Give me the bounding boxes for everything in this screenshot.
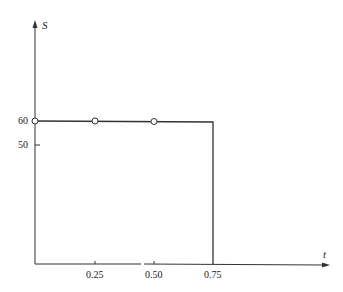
open-marker — [32, 118, 38, 124]
x-tick-label: 0.50 — [145, 269, 163, 280]
x-tick-label: 0.25 — [86, 269, 104, 280]
x-axis-segment — [144, 264, 325, 265]
y-tick-label: 50 — [18, 139, 28, 150]
y-axis-label: S — [42, 19, 48, 31]
x-axis-label: t — [323, 248, 327, 260]
data-line — [35, 121, 213, 264]
open-marker — [151, 119, 157, 125]
open-marker — [92, 118, 98, 124]
x-axis-arrow-icon — [322, 263, 330, 268]
step-chart: S t 0.25 0.50 0.75 60 50 — [0, 0, 343, 292]
y-axis-arrow-icon — [33, 20, 38, 28]
x-tick-label: 0.75 — [204, 269, 222, 280]
y-tick-label: 60 — [18, 115, 28, 126]
